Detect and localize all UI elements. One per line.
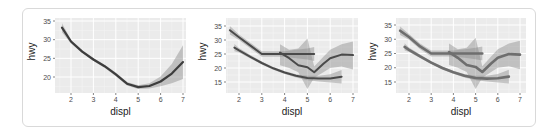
y-tick-label: 35 <box>214 23 222 30</box>
y-axis: 1520253035hwy <box>367 22 396 86</box>
x-tick-label: 5 <box>305 96 309 103</box>
x-tick-label: 6 <box>328 96 332 103</box>
x-tick-label: 3 <box>260 96 264 103</box>
y-tick-label: 25 <box>214 51 222 58</box>
y-axis-title: hwy <box>367 43 378 61</box>
y-axis: 1520253035hwy <box>197 23 226 86</box>
y-tick-label: 20 <box>384 64 392 71</box>
x-tick-label: 4 <box>114 96 118 103</box>
x-axis-title: displ <box>451 106 472 117</box>
x-tick-label: 7 <box>518 96 522 103</box>
chart-panel-1: 234567displ20253035hwy <box>26 18 186 118</box>
y-tick-label: 30 <box>214 37 222 44</box>
x-tick-label: 7 <box>351 96 355 103</box>
y-tick-label: 35 <box>384 22 392 29</box>
chart-panel-3: 234567displ1520253035hwy <box>367 18 526 117</box>
y-axis-title: hwy <box>197 43 208 61</box>
x-axis-title: displ <box>282 106 303 117</box>
x-tick-label: 3 <box>429 96 433 103</box>
y-tick-label: 15 <box>384 79 392 86</box>
y-tick-label: 30 <box>384 36 392 43</box>
x-tick-label: 7 <box>181 96 185 103</box>
x-axis-title: displ <box>110 106 131 117</box>
x-tick-label: 2 <box>69 96 73 103</box>
chart-panel-2: 234567displ1520253035hwy <box>197 18 358 117</box>
y-axis-title: hwy <box>26 43 37 61</box>
x-tick-label: 5 <box>136 96 140 103</box>
y-tick-label: 35 <box>43 18 51 25</box>
x-tick-label: 5 <box>474 96 478 103</box>
y-tick-label: 15 <box>214 79 222 86</box>
x-tick-label: 4 <box>451 96 455 103</box>
y-tick-label: 30 <box>43 36 51 43</box>
x-axis: 234567displ <box>237 93 355 117</box>
y-tick-label: 25 <box>384 50 392 57</box>
y-axis: 20253035hwy <box>26 18 55 81</box>
x-tick-label: 4 <box>283 96 287 103</box>
x-tick-label: 2 <box>407 96 411 103</box>
x-axis: 234567displ <box>69 93 185 117</box>
x-axis: 234567displ <box>407 93 522 117</box>
x-tick-label: 2 <box>237 96 241 103</box>
y-tick-label: 20 <box>43 74 51 81</box>
x-tick-label: 3 <box>91 96 95 103</box>
chart-figure: 234567displ20253035hwy 234567displ152025… <box>0 0 559 135</box>
y-tick-label: 25 <box>43 55 51 62</box>
y-tick-label: 20 <box>214 65 222 72</box>
x-tick-label: 6 <box>496 96 500 103</box>
x-tick-label: 6 <box>159 96 163 103</box>
